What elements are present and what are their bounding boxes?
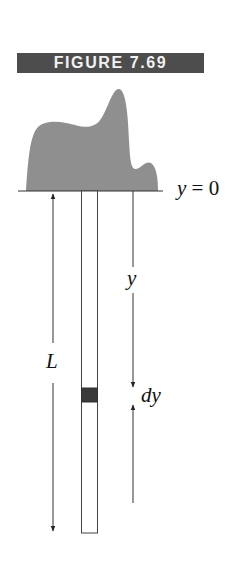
baseline-eq: = 0 xyxy=(192,176,220,200)
element-dy xyxy=(82,388,98,402)
depth-label: y xyxy=(127,266,136,291)
length-label: L xyxy=(46,349,58,374)
element-label: dy xyxy=(141,383,161,408)
baseline-var: y xyxy=(177,176,186,200)
terrain-shape xyxy=(26,89,158,191)
baseline-label: y = 0 xyxy=(177,176,219,201)
rod xyxy=(82,191,98,533)
rod-diagram xyxy=(0,0,240,579)
